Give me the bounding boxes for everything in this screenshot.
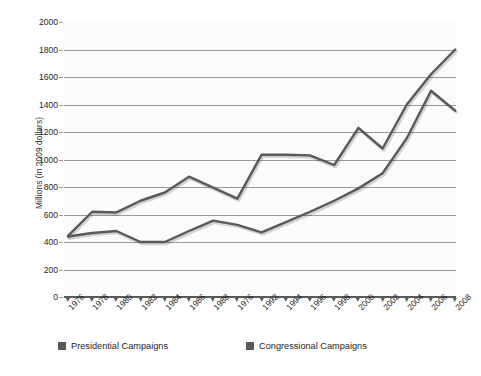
x-axis-tick-label: 2008: [453, 292, 473, 312]
chart-legend: Presidential CampaignsCongressional Camp…: [58, 341, 367, 351]
legend-swatch-icon: [58, 342, 66, 350]
y-axis-tick-mark: [59, 105, 63, 106]
y-axis-tick-mark: [59, 50, 63, 51]
y-axis-tick-mark: [59, 77, 63, 78]
series-line-shadow: [69, 92, 456, 243]
series-line-shadow: [69, 51, 456, 237]
y-axis-tick-mark: [59, 270, 63, 271]
y-axis-tick-label: 1000: [18, 155, 58, 165]
legend-label: Presidential Campaigns: [71, 341, 168, 351]
y-axis-tick-label: 0: [18, 292, 58, 302]
legend-item-presidential[interactable]: Presidential Campaigns: [58, 341, 168, 351]
series-lines: [64, 22, 456, 297]
y-axis-tick-label: 200: [18, 265, 58, 275]
series-line-congressional: [68, 91, 455, 242]
y-axis-tick-label: 1600: [18, 72, 58, 82]
y-axis-tick-label: 1200: [18, 127, 58, 137]
y-axis-tick-mark: [59, 22, 63, 23]
y-axis-tick-label: 400: [18, 237, 58, 247]
y-axis-tick-mark: [59, 132, 63, 133]
legend-label: Congressional Campaigns: [259, 341, 367, 351]
campaign-spending-chart: Millions (in 2009 dollars) 1976197819801…: [0, 0, 481, 376]
series-line-presidential: [68, 50, 455, 236]
y-axis-tick-label: 800: [18, 182, 58, 192]
y-axis-tick-mark: [59, 297, 63, 298]
y-axis-tick-label: 2000: [18, 17, 58, 27]
legend-item-congressional[interactable]: Congressional Campaigns: [246, 341, 367, 351]
y-axis-tick-label: 1800: [18, 45, 58, 55]
y-axis-tick-label: 1400: [18, 100, 58, 110]
y-axis-tick-mark: [59, 160, 63, 161]
y-axis-tick-mark: [59, 215, 63, 216]
legend-swatch-icon: [246, 342, 254, 350]
y-axis-tick-mark: [59, 242, 63, 243]
y-axis-tick-mark: [59, 187, 63, 188]
plot-area: 1976197819801982198419861988197619921994…: [64, 22, 456, 297]
y-axis-tick-label: 600: [18, 210, 58, 220]
